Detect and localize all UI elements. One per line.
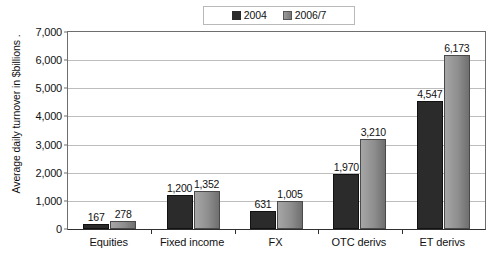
bar-value-label: 278 xyxy=(104,209,142,220)
bar-group: 167278 xyxy=(68,32,151,229)
y-axis-tick-label: 7,000 xyxy=(35,27,62,38)
y-axis-tick-label: 3,000 xyxy=(35,139,62,150)
bar-2006-7[interactable] xyxy=(194,191,220,229)
bar-series-group: 1672781,2001,3526311,0051,9703,2104,5476… xyxy=(68,32,485,229)
x-axis-tick-mark xyxy=(235,229,236,234)
bar-2006-7[interactable] xyxy=(110,221,136,229)
bar-2004[interactable] xyxy=(333,174,359,229)
bar-group: 1,2001,352 xyxy=(151,32,234,229)
bar-value-label: 6,173 xyxy=(438,43,476,54)
bar-chart: 2004 2006/7 Average daily turnover in $b… xyxy=(0,0,496,261)
bar-value-label: 3,210 xyxy=(354,127,392,138)
y-axis-tick-label: 2,000 xyxy=(35,167,62,178)
bar-group: 4,5476,173 xyxy=(402,32,485,229)
bar-2004[interactable] xyxy=(250,211,276,229)
y-axis-tick-label: 5,000 xyxy=(35,83,62,94)
y-axis-tick-label: 0 xyxy=(56,224,62,235)
x-axis-tick-mark xyxy=(402,229,403,234)
bar-2004[interactable] xyxy=(167,195,193,229)
plot-area: 01,0002,0003,0004,0005,0006,0007,000 167… xyxy=(67,31,486,230)
x-axis-label-otc-derivs: OTC derivs xyxy=(317,236,400,248)
x-axis-tick-mark xyxy=(151,229,152,234)
bar-2006-7[interactable] xyxy=(444,55,470,229)
bar-value-label: 1,352 xyxy=(188,179,226,190)
legend-entry-2004: 2004 xyxy=(232,10,267,21)
x-axis-tick-mark xyxy=(318,229,319,234)
legend-swatch-icon-2006-7 xyxy=(283,11,292,20)
y-axis-title: Average daily turnover in $billions . xyxy=(10,4,22,224)
y-axis-tick-label: 1,000 xyxy=(35,195,62,206)
bar-group: 1,9703,210 xyxy=(318,32,401,229)
x-axis-label-fixed-income: Fixed income xyxy=(150,236,233,248)
x-axis-label-fx: FX xyxy=(234,236,317,248)
x-axis-label-equities: Equities xyxy=(67,236,150,248)
x-axis-label-et-derivs: ET derivs xyxy=(401,236,484,248)
legend-swatch-icon-2004 xyxy=(232,11,241,20)
legend-entry-2006-7: 2006/7 xyxy=(283,10,327,21)
y-axis-tick-label: 4,000 xyxy=(35,111,62,122)
bar-2004[interactable] xyxy=(83,224,109,229)
bar-group: 6311,005 xyxy=(235,32,318,229)
bar-2006-7[interactable] xyxy=(277,201,303,229)
y-axis-tick-label: 6,000 xyxy=(35,55,62,66)
legend-label-2006-7: 2006/7 xyxy=(295,10,327,21)
chart-legend: 2004 2006/7 xyxy=(203,6,355,25)
bar-2006-7[interactable] xyxy=(360,139,386,229)
bar-value-label: 1,005 xyxy=(271,189,309,200)
bar-2004[interactable] xyxy=(417,101,443,229)
legend-label-2004: 2004 xyxy=(244,10,267,21)
